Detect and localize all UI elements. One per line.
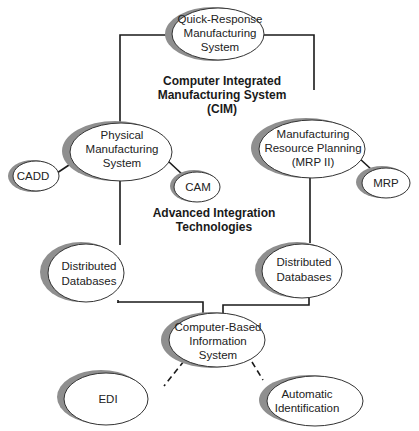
node-quick-response-manufacturing-system: Quick-Response Manufacturing System (165, 7, 264, 61)
connector-ddb-right-cbis (223, 297, 309, 314)
svg-text:(CIM): (CIM) (207, 102, 237, 116)
node-physical-manufacturing-system: Physical Manufacturing System (62, 121, 172, 181)
svg-text:CADD: CADD (17, 170, 50, 182)
svg-text:Manufacturing System: Manufacturing System (158, 88, 287, 102)
node-distributed-databases-left: Distributed Databases (40, 242, 124, 302)
node-label: System (201, 41, 239, 53)
cim-diagram: Quick-Response Manufacturing System Comp… (0, 0, 419, 431)
svg-text:Advanced Integration: Advanced Integration (153, 206, 276, 220)
node-mrp: MRP (356, 166, 410, 198)
svg-text:Distributed: Distributed (62, 260, 117, 272)
connector-cbis-edi (164, 361, 184, 386)
node-label: Quick-Response (177, 13, 262, 25)
svg-text:CAM: CAM (185, 181, 211, 193)
node-automatic-identification: Automatic Identification (259, 375, 363, 426)
svg-text:Identification: Identification (275, 402, 340, 414)
svg-text:Technologies: Technologies (176, 220, 253, 234)
svg-text:Information: Information (189, 335, 247, 347)
node-label: Manufacturing (184, 27, 257, 39)
svg-text:(MRP II): (MRP II) (292, 156, 335, 168)
connector-ddb-left-cbis (118, 300, 203, 314)
node-cadd: CADD (8, 160, 59, 192)
node-distributed-databases-right: Distributed Databases (255, 242, 342, 298)
svg-text:Databases: Databases (277, 271, 332, 283)
connector-cbis-autoid (252, 362, 263, 380)
svg-text:Databases: Databases (62, 275, 117, 287)
svg-text:Computer-Based: Computer-Based (175, 321, 262, 333)
svg-text:Automatic: Automatic (281, 388, 332, 400)
svg-text:MRP: MRP (373, 177, 399, 189)
svg-text:System: System (103, 157, 141, 169)
svg-text:Physical: Physical (101, 129, 144, 141)
svg-text:Manufacturing: Manufacturing (277, 128, 350, 140)
node-computer-based-information-system: Computer-Based Information System (161, 312, 265, 368)
node-edi: EDI (57, 370, 148, 425)
node-mrp-ii: Manufacturing Resource Planning (MRP II) (251, 118, 365, 178)
label-cim: Computer Integrated Manufacturing System… (158, 74, 287, 116)
svg-text:Distributed: Distributed (277, 256, 332, 268)
svg-text:EDI: EDI (98, 393, 117, 405)
svg-text:Resource Planning: Resource Planning (264, 142, 361, 154)
svg-text:Manufacturing: Manufacturing (86, 143, 159, 155)
label-advanced-integration-technologies: Advanced Integration Technologies (153, 206, 276, 234)
svg-text:Computer Integrated: Computer Integrated (163, 74, 281, 88)
svg-text:System: System (199, 349, 237, 361)
node-cam: CAM (170, 170, 220, 202)
